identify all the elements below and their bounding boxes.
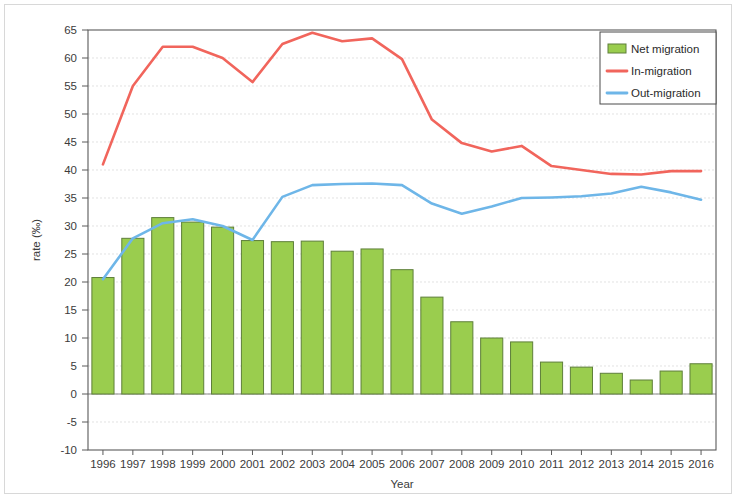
x-axis-tick-labels: 1996199719981999200020012002200320042005… [90,450,714,470]
x-tick-label: 2003 [299,458,325,470]
x-tick-label: 2004 [329,458,355,470]
y-tick-label: 0 [71,388,77,400]
x-tick-label: 1997 [120,458,146,470]
y-tick-label: 35 [64,192,77,204]
bar [421,297,443,394]
x-tick-label: 2001 [240,458,266,470]
y-tick-label: 50 [64,108,77,120]
x-tick-label: 2002 [270,458,296,470]
chart-legend: Net migrationIn-migrationOut-migration [600,32,716,104]
legend-label-out-migration: Out-migration [631,87,701,99]
bar [690,364,712,394]
x-tick-label: 2013 [599,458,625,470]
x-tick-label: 2012 [569,458,595,470]
x-tick-label: 2007 [419,458,445,470]
x-axis-title: Year [390,478,413,490]
x-tick-label: 2009 [479,458,505,470]
migration-rate-chart-figure: 65605550454035302520151050-5-10199619971… [0,0,738,500]
y-tick-label: 60 [64,52,77,64]
y-axis-title: rate (‰) [30,219,42,261]
legend-label-net-migration: Net migration [631,43,699,55]
bar [152,218,174,394]
y-tick-label: -5 [67,416,77,428]
bar [301,241,323,394]
y-tick-label: 55 [64,80,77,92]
y-tick-label: 65 [64,24,77,36]
bar [92,278,114,394]
y-tick-label: 5 [71,360,77,372]
legend-label-in-migration: In-migration [631,65,692,77]
y-tick-label: 15 [64,304,77,316]
legend-swatch-net-migration [608,44,626,53]
bar [451,322,473,394]
bar [241,241,263,394]
bar [391,270,413,394]
bar [361,249,383,394]
y-tick-label: 25 [64,248,77,260]
bar [481,338,503,394]
x-tick-label: 2010 [509,458,535,470]
bar [570,367,592,394]
y-tick-label: 20 [64,276,77,288]
x-tick-label: 1996 [90,458,116,470]
x-tick-label: 1999 [180,458,206,470]
x-tick-label: 2011 [539,458,564,470]
x-tick-label: 2005 [359,458,385,470]
y-tick-label: 40 [64,164,77,176]
bar [271,242,293,394]
bar [600,373,622,394]
chart-canvas: 65605550454035302520151050-5-10199619971… [0,0,738,500]
bar [511,342,533,394]
x-tick-label: 2000 [210,458,236,470]
y-tick-label: -10 [60,444,77,456]
y-tick-label: 10 [64,332,77,344]
x-tick-label: 1998 [150,458,176,470]
y-axis-tick-labels: 65605550454035302520151050-5-10 [60,24,88,456]
x-tick-label: 2008 [449,458,475,470]
bar [182,222,204,394]
y-tick-label: 30 [64,220,77,232]
bar [660,371,682,394]
bar [540,362,562,394]
x-tick-label: 2014 [628,458,654,470]
x-tick-label: 2006 [389,458,415,470]
bar [331,251,353,394]
x-tick-label: 2015 [658,458,684,470]
bar [122,238,144,394]
bar [212,227,234,394]
y-tick-label: 45 [64,136,77,148]
x-tick-label: 2016 [688,458,714,470]
bar [630,380,652,394]
